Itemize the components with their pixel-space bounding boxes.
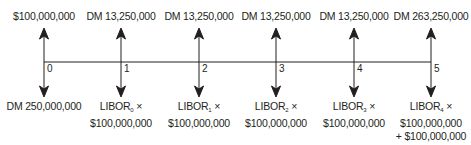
inflow-label-2: DM 13,250,000 [164,10,233,22]
notional-text: $100,000,000 [396,117,466,130]
outflow-label-2: LIBOR1 × $100,000,000 [168,100,230,130]
period-label-2: 2 [202,63,208,74]
outflow-label-4: LIBOR3 × $100,000,000 [323,100,385,130]
notional-text: $100,000,000 [168,117,230,130]
notional-text: $100,000,000 [245,117,307,130]
inflow-label-0: $100,000,000 [13,10,75,22]
times-symbol: × [369,100,375,112]
libor-subscript: 2 [285,107,288,113]
outflow-label-3: LIBOR2 × $100,000,000 [245,100,307,130]
outflow-label-5: LIBOR4 × $100,000,000 + $100,000,000 [396,100,466,143]
period-label-5: 5 [434,63,440,74]
notional-text: $100,000,000 [323,117,385,130]
times-symbol: × [291,100,297,112]
notional-text: $100,000,000 [90,117,152,130]
libor-subscript: 0 [130,107,133,113]
period-label-1: 1 [124,63,130,74]
inflow-label-3: DM 13,250,000 [241,10,310,22]
outflow-label-0: DM 250,000,000 [7,100,82,113]
libor-text: LIBOR [100,100,131,112]
principal-text: + $100,000,000 [396,130,466,143]
libor-text: LIBOR [255,100,286,112]
libor-subscript: 1 [208,107,211,113]
times-symbol: × [214,100,220,112]
libor-text: LIBOR [410,100,441,112]
period-label-4: 4 [357,63,363,74]
outflow-label-1: LIBOR0 × $100,000,000 [90,100,152,130]
inflow-label-5: DM 263,250,000 [394,10,469,22]
period-label-3: 3 [279,63,285,74]
libor-subscript: 4 [440,107,443,113]
period-label-0: 0 [47,63,53,74]
outflow-text: DM 250,000,000 [7,100,82,112]
times-symbol: × [136,100,142,112]
inflow-label-4: DM 13,250,000 [319,10,388,22]
times-symbol: × [446,100,452,112]
libor-subscript: 3 [363,107,366,113]
libor-text: LIBOR [333,100,364,112]
inflow-label-1: DM 13,250,000 [86,10,155,22]
libor-text: LIBOR [178,100,209,112]
